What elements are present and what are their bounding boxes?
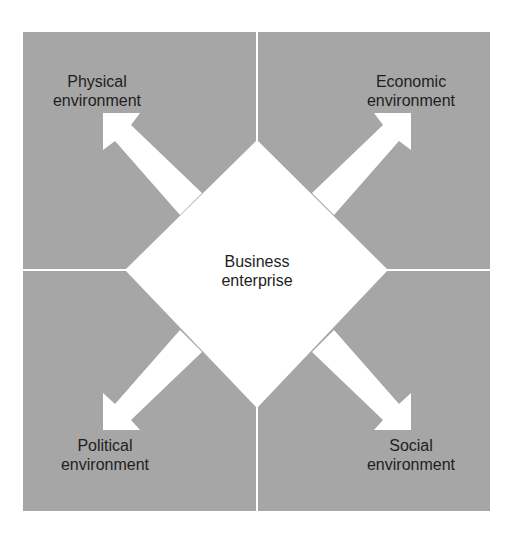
social-environment-label: Social environment [356,436,466,474]
physical-line2: environment [42,91,152,110]
social-line1: Social [356,436,466,455]
political-line2: environment [50,455,160,474]
economic-line2: environment [356,91,466,110]
center-label: Business enterprise [207,252,307,290]
center-label-line1: Business [207,252,307,271]
center-label-line2: enterprise [207,271,307,290]
economic-line1: Economic [356,72,466,91]
physical-environment-label: Physical environment [42,72,152,110]
physical-line1: Physical [42,72,152,91]
economic-environment-label: Economic environment [356,72,466,110]
political-line1: Political [50,436,160,455]
political-environment-label: Political environment [50,436,160,474]
social-line2: environment [356,455,466,474]
